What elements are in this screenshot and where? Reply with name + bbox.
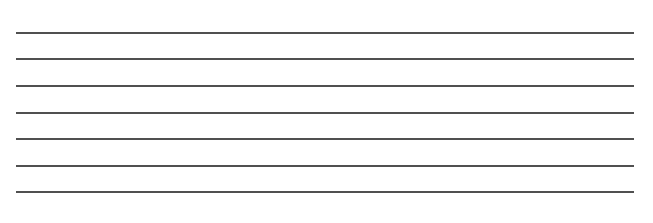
writing-line-1 — [16, 32, 634, 34]
ruled-page — [0, 0, 653, 223]
writing-line-4 — [16, 112, 634, 114]
writing-line-3 — [16, 85, 634, 87]
writing-line-6 — [16, 165, 634, 167]
writing-line-7 — [16, 191, 634, 193]
writing-line-2 — [16, 58, 634, 60]
writing-line-5 — [16, 138, 634, 140]
